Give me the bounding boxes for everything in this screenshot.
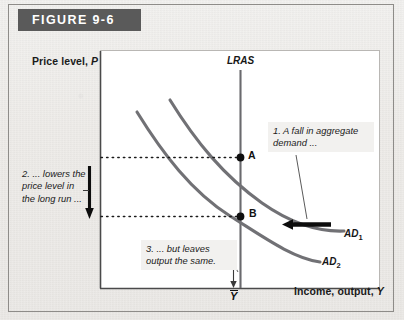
ad1-label-text: AD bbox=[344, 228, 358, 239]
point-a-marker bbox=[237, 154, 245, 162]
ad-shift-arrowhead-icon bbox=[282, 219, 293, 230]
x-axis-label: Income, output, Y bbox=[294, 285, 384, 298]
x-axis-tick-label-ybar: Y bbox=[230, 290, 238, 303]
ad1-label-subscript: 1 bbox=[358, 233, 362, 242]
x-axis-label-text: Income, output, bbox=[294, 285, 377, 297]
ad1-label: AD1 bbox=[344, 228, 363, 242]
figure-9-6: FIGURE 9-6 bbox=[0, 0, 404, 320]
ad2-label-text: AD bbox=[322, 256, 336, 267]
ad2-label-subscript: 2 bbox=[336, 261, 340, 270]
y-axis-label-text: Price level, bbox=[32, 55, 91, 67]
annotation-note-2: 2. ... lowers the price level in the lon… bbox=[22, 168, 86, 205]
point-b-marker bbox=[237, 213, 245, 221]
ad1-curve bbox=[170, 100, 344, 231]
x-axis-label-variable: Y bbox=[377, 285, 384, 297]
diagram-canvas bbox=[0, 0, 404, 320]
y-axis-label-variable: P bbox=[91, 55, 98, 67]
point-a-label: A bbox=[248, 149, 256, 162]
ybar-arrowhead-icon bbox=[230, 281, 236, 288]
lras-label: LRAS bbox=[227, 55, 254, 67]
point-b-label: B bbox=[249, 207, 257, 220]
annotation-note-1: 1. A fall in aggregate demand ... bbox=[268, 122, 374, 152]
annotation-note-3: 3. ... but leaves output the same. bbox=[141, 240, 237, 270]
ybar-letter: Y bbox=[230, 290, 237, 302]
price-fall-arrowhead-icon bbox=[85, 208, 94, 219]
ad2-label: AD2 bbox=[322, 256, 341, 270]
y-axis-label: Price level, P bbox=[32, 55, 98, 68]
note1-leader-line bbox=[296, 155, 307, 219]
